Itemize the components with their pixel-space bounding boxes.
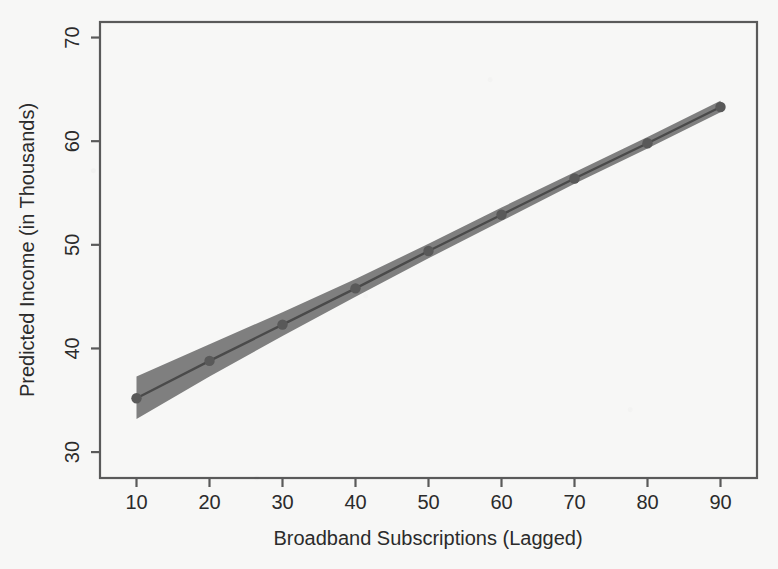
- x-axis-tick-label: 20: [198, 491, 220, 513]
- y-axis-tick-label: 70: [61, 26, 83, 48]
- x-axis-tick-label: 80: [636, 491, 658, 513]
- data-point: [204, 356, 214, 366]
- x-axis-tick-label: 60: [490, 491, 512, 513]
- y-axis-tick-label: 60: [61, 130, 83, 152]
- data-point: [423, 246, 433, 256]
- data-point: [642, 138, 652, 148]
- predicted-income-line-chart: 3040506070 102030405060708090 Predicted …: [0, 0, 778, 569]
- x-axis-tick-label: 70: [563, 491, 585, 513]
- chart-figure: 3040506070 102030405060708090 Predicted …: [0, 0, 778, 569]
- x-axis-tick-label: 30: [271, 491, 293, 513]
- y-axis-tick-label: 50: [61, 234, 83, 256]
- chart-background: [0, 0, 778, 569]
- y-axis-tick-label: 30: [61, 441, 83, 463]
- x-axis-tick-label: 40: [344, 491, 366, 513]
- y-axis-title: Predicted Income (in Thousands): [16, 103, 38, 397]
- data-point: [131, 393, 141, 403]
- x-axis-tick-label: 50: [417, 491, 439, 513]
- data-point: [277, 319, 287, 329]
- x-axis-title: Broadband Subscriptions (Lagged): [273, 527, 582, 549]
- x-axis-tick-label: 10: [125, 491, 147, 513]
- data-point: [715, 102, 725, 112]
- data-point: [350, 283, 360, 293]
- data-point: [569, 173, 579, 183]
- y-axis-tick-label: 40: [61, 337, 83, 359]
- x-axis-tick-label: 90: [709, 491, 731, 513]
- data-point: [496, 210, 506, 220]
